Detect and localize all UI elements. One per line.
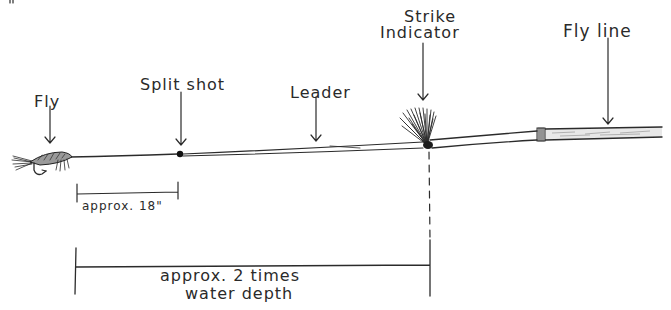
split-shot-arrow-icon (176, 92, 186, 145)
label-fly-line: Fly line (563, 21, 632, 41)
fly-graphic (12, 152, 72, 175)
strike-indicator-arrow-icon (418, 43, 428, 100)
corner-mark (10, 0, 13, 3)
label-split-shot: Split shot (140, 75, 225, 94)
line-connector (537, 128, 545, 141)
label-leader: Leader (290, 83, 351, 102)
leader-graphic (183, 142, 423, 156)
split-shot-graphic (177, 151, 183, 157)
measure-2x-depth-line2: water depth (185, 284, 293, 303)
rig-diagram: Fly Split shot Leader Strike Indicator F… (0, 0, 671, 310)
fly-line-arrow-icon (603, 38, 613, 124)
label-strike-indicator-line2: Indicator (380, 23, 460, 42)
fly-arrow-icon (45, 106, 55, 143)
measure-18in: approx. 18" (82, 199, 163, 213)
leader-butt-graphic (430, 131, 537, 148)
dashed-depth-marker (429, 152, 430, 240)
tippet-graphic (70, 154, 178, 157)
label-fly: Fly (34, 92, 60, 111)
leader-arrow-icon (311, 97, 321, 141)
fly-line-graphic (545, 127, 662, 140)
measure-2x-depth-line1: approx. 2 times (160, 266, 300, 285)
